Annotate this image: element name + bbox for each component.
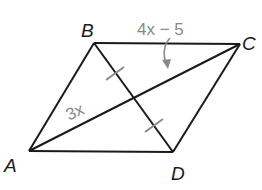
diagonal-bd	[94, 43, 173, 152]
vertex-label-a: A	[3, 155, 17, 176]
vertex-label-d: D	[171, 163, 185, 184]
vertex-label-c: C	[242, 33, 256, 54]
vertex-label-b: B	[81, 20, 94, 41]
tick-mark-ed	[145, 119, 163, 132]
measure-label-ae: 3x	[63, 99, 88, 124]
parallelogram-diagram: B C A D 4x − 5 3x	[0, 0, 262, 190]
side-da	[29, 151, 173, 152]
measure-label-ec: 4x − 5	[137, 20, 184, 39]
tick-mark-be	[106, 67, 124, 80]
arrow-head-icon	[162, 59, 171, 69]
